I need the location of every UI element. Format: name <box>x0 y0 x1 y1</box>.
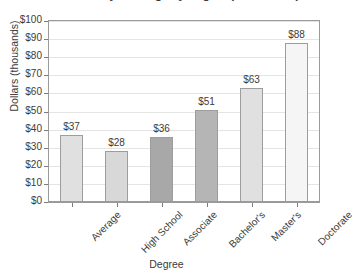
x-axis-line <box>49 201 319 202</box>
y-axis-tick-label: $100 <box>20 14 42 25</box>
x-axis-tick <box>252 203 253 207</box>
x-axis-category-label: Doctorate <box>315 209 353 247</box>
bar <box>285 43 308 202</box>
bar <box>150 137 173 202</box>
x-axis-category-label: High School <box>138 209 184 255</box>
gridline <box>49 184 319 185</box>
bar-value-label: $37 <box>42 121 102 132</box>
chart-title: Median Weekly Earnings by Degree (Annual… <box>34 0 300 1</box>
y-axis-tick-label: $0 <box>31 195 42 206</box>
bar-value-label: $88 <box>267 29 327 40</box>
y-axis-tick-label: $80 <box>25 50 42 61</box>
x-axis-category-label: Associate <box>180 209 218 247</box>
gridline <box>49 93 319 94</box>
x-axis-tick <box>117 203 118 207</box>
x-axis-label: Degree <box>0 258 333 270</box>
y-axis-tick-label: $30 <box>25 141 42 152</box>
y-axis-tick-label: $40 <box>25 123 42 134</box>
gridline <box>49 21 319 22</box>
gridline <box>49 112 319 113</box>
y-axis-tick-label: $50 <box>25 105 42 116</box>
x-axis-tick <box>162 203 163 207</box>
y-axis-tick-label: $90 <box>25 32 42 43</box>
gridline <box>49 166 319 167</box>
x-axis-category-label: Master's <box>268 209 302 243</box>
plot-area <box>48 20 320 203</box>
chart-title-clipped: Median Weekly Earnings by Degree (Annual… <box>0 0 333 7</box>
bar <box>60 135 83 202</box>
x-axis-tick <box>297 203 298 207</box>
x-axis-category-label: Bachelor's <box>226 209 267 250</box>
x-axis-tick <box>72 203 73 207</box>
bar-value-label: $51 <box>177 96 237 107</box>
bar-value-label: $36 <box>132 123 192 134</box>
bar-value-label: $28 <box>87 137 147 148</box>
y-axis-tick-label: $60 <box>25 86 42 97</box>
bar <box>195 110 218 202</box>
bar <box>240 88 263 202</box>
bar <box>105 151 128 202</box>
x-axis-tick <box>207 203 208 207</box>
gridline <box>49 57 319 58</box>
y-axis-tick-label: $70 <box>25 68 42 79</box>
y-axis-tick-label: $20 <box>25 159 42 170</box>
y-axis-tick-label: $10 <box>25 177 42 188</box>
y-axis-label: Dollars (thousands) <box>8 16 20 116</box>
x-axis-category-label: Average <box>88 209 122 243</box>
bar-value-label: $63 <box>222 74 282 85</box>
